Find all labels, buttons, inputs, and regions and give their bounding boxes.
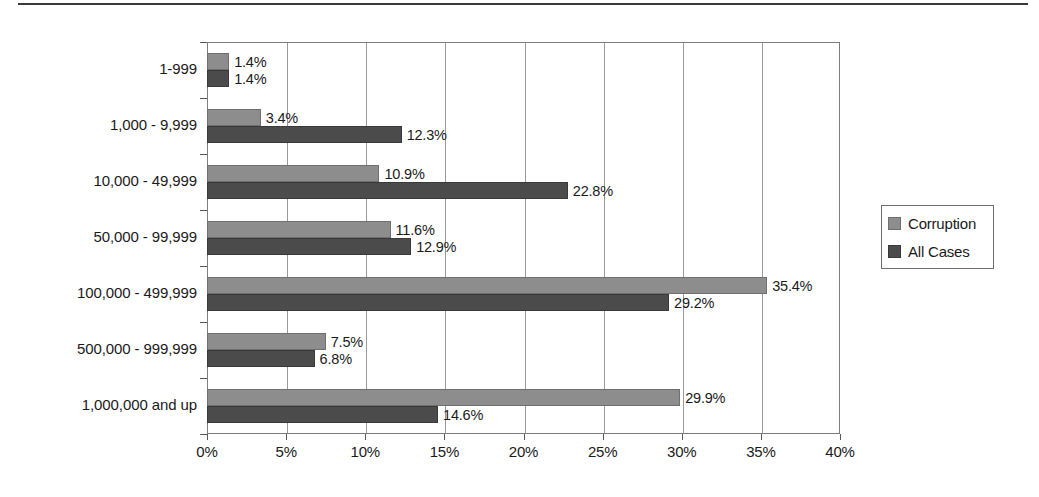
horizontal-bar-chart: 1-9991,000 - 9,99910,000 - 49,99950,000 … — [0, 0, 1039, 497]
category-label: 500,000 - 999,999 — [0, 340, 197, 357]
bar-corruption — [207, 221, 391, 238]
bar-all-cases — [207, 70, 229, 87]
bar-value-label-corruption: 10.9% — [384, 166, 424, 182]
category-label: 10,000 - 49,999 — [0, 172, 197, 189]
x-tick-mark — [365, 434, 366, 440]
y-tick-mark — [200, 378, 207, 379]
category-label: 1,000,000 and up — [0, 396, 197, 413]
category-label: 100,000 - 499,999 — [0, 284, 197, 301]
x-axis-tick-label: 10% — [330, 443, 400, 460]
category-label: 50,000 - 99,999 — [0, 228, 197, 245]
x-axis-tick-label: 40% — [805, 443, 875, 460]
x-tick-mark — [840, 434, 841, 440]
y-tick-mark — [200, 154, 207, 155]
bar-corruption — [207, 333, 326, 350]
x-tick-mark — [286, 434, 287, 440]
x-tick-mark — [603, 434, 604, 440]
category-label: 1-999 — [0, 60, 197, 77]
bar-value-label-corruption: 35.4% — [772, 278, 812, 294]
bar-all-cases — [207, 238, 411, 255]
gridline-25pct — [604, 43, 605, 433]
bar-all-cases — [207, 294, 669, 311]
x-tick-mark — [207, 434, 208, 440]
bar-corruption — [207, 53, 229, 70]
y-tick-mark — [200, 42, 207, 43]
bar-value-label-all-cases: 29.2% — [674, 295, 714, 311]
legend-item-corruption: Corruption — [888, 212, 976, 234]
x-axis-tick-label: 0% — [172, 443, 242, 460]
bar-value-label-corruption: 11.6% — [396, 222, 435, 238]
x-tick-mark — [761, 434, 762, 440]
x-axis-tick-label: 15% — [409, 443, 479, 460]
bar-value-label-all-cases: 12.9% — [416, 239, 456, 255]
y-tick-mark — [200, 266, 207, 267]
bar-value-label-corruption: 3.4% — [266, 110, 298, 126]
gridline-20pct — [525, 43, 526, 433]
chart-legend: Corruption All Cases — [881, 205, 994, 269]
bar-all-cases — [207, 126, 402, 143]
legend-label-corruption: Corruption — [908, 215, 976, 232]
x-tick-mark — [682, 434, 683, 440]
bar-value-label-corruption: 1.4% — [234, 54, 266, 70]
bar-corruption — [207, 165, 379, 182]
x-tick-mark — [444, 434, 445, 440]
bar-value-label-all-cases: 22.8% — [573, 183, 613, 199]
bar-corruption — [207, 277, 767, 294]
legend-swatch-corruption — [888, 217, 901, 230]
x-axis-tick-label: 30% — [647, 443, 717, 460]
y-tick-mark — [200, 322, 207, 323]
gridline-30pct — [683, 43, 684, 433]
x-axis-tick-label: 35% — [726, 443, 796, 460]
x-tick-mark — [524, 434, 525, 440]
legend-label-all-cases: All Cases — [908, 243, 970, 260]
y-tick-mark — [200, 434, 207, 435]
bar-value-label-all-cases: 12.3% — [407, 127, 447, 143]
bar-corruption — [207, 109, 261, 126]
category-axis-labels: 1-9991,000 - 9,99910,000 - 49,99950,000 … — [0, 0, 197, 497]
bar-all-cases — [207, 406, 438, 423]
legend-swatch-all-cases — [888, 245, 901, 258]
legend-item-all-cases: All Cases — [888, 240, 970, 262]
gridline-35pct — [762, 43, 763, 433]
bar-all-cases — [207, 182, 568, 199]
gridline-15pct — [445, 43, 446, 433]
y-tick-mark — [200, 210, 207, 211]
bar-all-cases — [207, 350, 315, 367]
x-axis-tick-label: 20% — [489, 443, 559, 460]
bar-value-label-all-cases: 1.4% — [234, 71, 266, 87]
bar-value-label-corruption: 29.9% — [685, 390, 725, 406]
bar-corruption — [207, 389, 680, 406]
category-label: 1,000 - 9,999 — [0, 116, 197, 133]
bar-value-label-all-cases: 6.8% — [320, 351, 352, 367]
x-axis-tick-label: 5% — [251, 443, 321, 460]
x-axis-tick-label: 25% — [568, 443, 638, 460]
y-tick-mark — [200, 98, 207, 99]
bar-value-label-all-cases: 14.6% — [443, 407, 483, 423]
bar-value-label-corruption: 7.5% — [331, 334, 363, 350]
